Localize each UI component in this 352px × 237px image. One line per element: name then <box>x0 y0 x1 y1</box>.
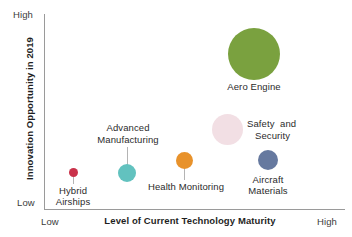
plot-area: Aero Engine Safety and Security Aircraft… <box>0 0 352 237</box>
bubble-label-safety-and-security-line2: Security <box>255 130 345 142</box>
bubble-label-aircraft-materials-line2: Materials <box>238 185 298 197</box>
bubble-label-advanced-manufacturing-line2: Manufacturing <box>86 134 170 146</box>
bubble-label-health-monitoring: Health Monitoring <box>141 181 231 193</box>
bubble-health-monitoring[interactable] <box>176 152 193 169</box>
bubble-chart: High Low Low High Innovation Opportunity… <box>0 0 352 237</box>
bubble-label-hybrid-airships-line1: Hybrid <box>44 185 102 197</box>
bubble-label-hybrid-airships-line2: Airships <box>44 196 102 208</box>
bubble-label-aircraft-materials-line1: Aircraft <box>238 174 298 186</box>
leader-line-advanced-manufacturing <box>127 147 128 165</box>
leader-line-health-monitoring <box>184 168 185 180</box>
bubble-advanced-manufacturing[interactable] <box>118 164 136 182</box>
bubble-aircraft-materials[interactable] <box>258 150 278 170</box>
bubble-safety-and-security[interactable] <box>212 114 243 145</box>
bubble-label-aero-engine: Aero Engine <box>214 81 294 93</box>
bubble-aero-engine[interactable] <box>228 28 280 80</box>
leader-line-hybrid-airships <box>73 176 74 184</box>
bubble-label-safety-and-security-line1: Safety and <box>247 118 337 130</box>
bubble-label-advanced-manufacturing-line1: Advanced <box>86 122 170 134</box>
bubble-hybrid-airships[interactable] <box>69 168 78 177</box>
